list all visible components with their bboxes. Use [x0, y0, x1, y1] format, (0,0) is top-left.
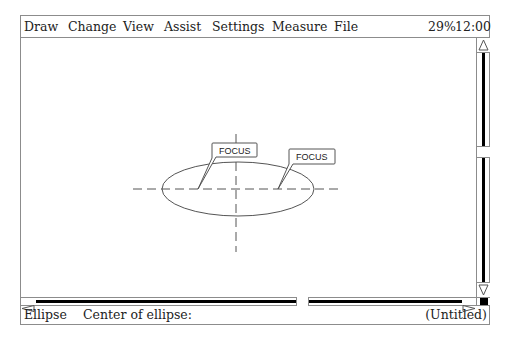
app-window: Draw Change View Assist Settings Measure…	[20, 15, 490, 325]
menu-file[interactable]: File	[334, 19, 358, 34]
scrollbar-corner	[476, 297, 490, 306]
corner-square-icon	[480, 298, 488, 305]
horizontal-scrollbar[interactable]	[21, 297, 476, 306]
vertical-scrollbar[interactable]	[476, 38, 490, 297]
command-prompt: Center of ellipse:	[83, 307, 192, 322]
focus-callout-2: FOCUS	[278, 149, 335, 189]
menu-bar: Draw Change View Assist Settings Measure…	[21, 16, 489, 38]
scroll-down-button[interactable]	[477, 282, 490, 297]
menu-change[interactable]: Change	[68, 19, 117, 34]
scroll-left-button[interactable]	[21, 298, 35, 305]
vertical-scroll-track[interactable]	[482, 53, 485, 282]
scroll-up-button[interactable]	[477, 38, 490, 53]
vertical-scroll-thumb[interactable]	[477, 146, 490, 158]
current-tool: Ellipse	[24, 307, 67, 322]
scroll-right-button[interactable]	[462, 298, 476, 305]
triangle-up-icon	[477, 38, 490, 52]
menu-view[interactable]: View	[123, 19, 154, 34]
triangle-down-icon	[477, 283, 490, 297]
zoom-level: 29%	[428, 19, 456, 34]
focus-callout-1: FOCUS	[198, 143, 257, 189]
focus-label-1: FOCUS	[219, 146, 251, 156]
clock: 12:00	[455, 19, 491, 34]
status-bar: Ellipse Center of ellipse: (Untitled)	[21, 306, 489, 324]
horizontal-scroll-track[interactable]	[36, 300, 463, 303]
drawing-svg: FOCUS FOCUS	[21, 38, 476, 297]
drawing-canvas[interactable]: FOCUS FOCUS	[21, 38, 476, 297]
focus-label-2: FOCUS	[296, 152, 328, 162]
menu-measure[interactable]: Measure	[272, 19, 328, 34]
menu-assist[interactable]: Assist	[164, 19, 201, 34]
document-name: (Untitled)	[425, 307, 487, 322]
menu-settings[interactable]: Settings	[212, 19, 264, 34]
menu-draw[interactable]: Draw	[24, 19, 58, 34]
horizontal-scroll-thumb[interactable]	[296, 297, 309, 306]
